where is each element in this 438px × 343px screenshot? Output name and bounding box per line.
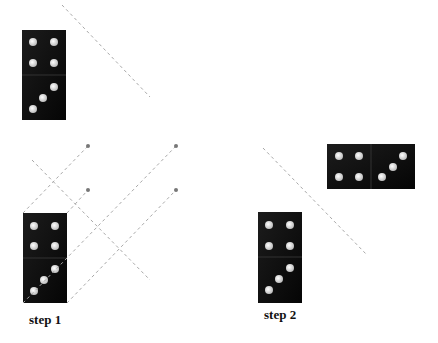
domino-original [22,30,66,120]
rotation-points [86,144,178,192]
diagram-svg [0,0,438,343]
domino-rotated [327,144,415,189]
step2-label: step 2 [264,307,296,323]
domino-step2 [258,212,302,303]
domino-step1 [23,213,67,303]
step1-label: step 1 [29,312,61,328]
guide-lines [23,5,367,303]
diagram-canvas: step 1 step 2 [0,0,438,343]
